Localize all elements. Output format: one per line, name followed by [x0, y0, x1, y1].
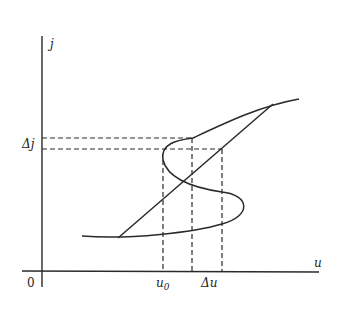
u-axis [22, 271, 319, 272]
delta-u-label: Δu [200, 276, 217, 290]
u-axis-label: u [314, 256, 322, 270]
delta-j-label: Δj [21, 137, 35, 151]
origin-label: 0 [27, 276, 35, 290]
load-line [118, 104, 273, 238]
u0-label: u0 [156, 276, 170, 292]
j-axis-label: j [47, 37, 54, 51]
diagram-canvas: j u 0 Δj u0 Δu [0, 0, 342, 318]
u0-main: u [156, 276, 164, 290]
u0-sub: 0 [164, 282, 170, 292]
s-curve [82, 99, 299, 237]
